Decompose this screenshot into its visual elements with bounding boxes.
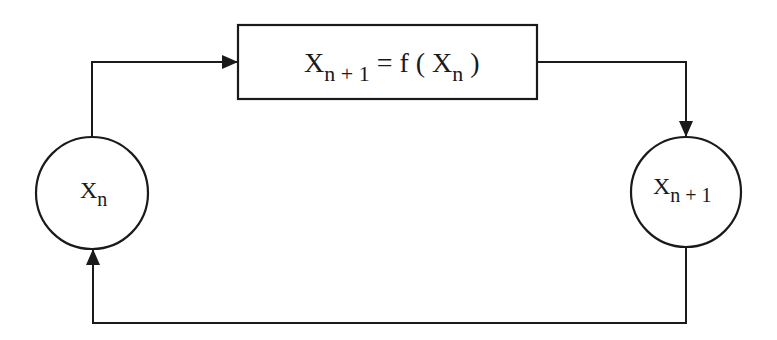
edge-function-to-xn1 — [538, 62, 686, 136]
feedback-diagram: Xn + 1 = f ( Xn ) Xn Xn + 1 — [0, 0, 777, 340]
edge-feedback-xn1-to-xn — [93, 248, 686, 323]
node-xn1: Xn + 1 — [631, 137, 741, 247]
edge-xn-to-function — [92, 62, 237, 137]
node-xn: Xn — [36, 137, 148, 249]
function-box: Xn + 1 = f ( Xn ) — [238, 25, 537, 99]
